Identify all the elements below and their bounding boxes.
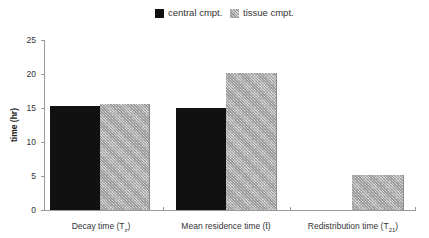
- bar-decay-tissue: [100, 104, 150, 210]
- legend-swatch-tissue: [230, 9, 239, 18]
- y-tick-label: 15: [20, 103, 36, 113]
- category-text-end: ): [128, 221, 131, 231]
- x-category-label-decay: Decay time (Tz): [38, 221, 164, 233]
- bar-decay-central: [50, 106, 100, 210]
- y-tick-label: 10: [20, 137, 36, 147]
- legend-label-central: central cmpt.: [168, 7, 222, 18]
- legend-label-tissue: tissue cmpt.: [243, 7, 294, 18]
- category-text-end: ): [395, 221, 398, 231]
- category-text: Redistribution time (T: [308, 221, 389, 231]
- y-axis-label: time (hr): [9, 103, 19, 147]
- plot-area: [44, 40, 416, 210]
- y-tick-label: 25: [20, 35, 36, 45]
- bar-redistribution-tissue: [352, 175, 404, 210]
- category-text-end: ): [268, 221, 271, 231]
- bars-container: [44, 40, 416, 210]
- x-category-label-redistribution: Redistribution time (T21): [290, 221, 416, 233]
- bar-mean-residence-central: [176, 108, 226, 210]
- x-category-label-mean-residence: Mean residence time (t̄): [163, 221, 289, 233]
- category-text: Decay time (T: [72, 221, 125, 231]
- category-text: Mean residence time (t̄: [181, 221, 267, 231]
- y-tick-label: 5: [20, 171, 36, 181]
- x-axis-line: [44, 210, 416, 211]
- legend-swatch-central: [155, 9, 164, 18]
- y-tick-label: 20: [20, 69, 36, 79]
- y-tick-label: 0: [20, 205, 36, 215]
- bar-mean-residence-tissue: [226, 73, 277, 210]
